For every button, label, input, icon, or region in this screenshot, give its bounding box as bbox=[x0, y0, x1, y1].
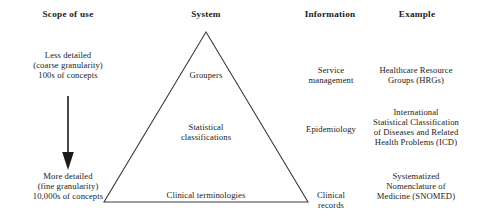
scope-top-label: Less detailed (coarse granularity) 100s … bbox=[3, 50, 133, 80]
example-tier-hrgs: Healthcare Resource Groups (HRGs) bbox=[353, 65, 479, 85]
pyramid-tier-label-statistical-classifications: Statistical classifications bbox=[161, 122, 251, 142]
downward-arrow-icon bbox=[62, 96, 74, 170]
example-tier-icd: International Statistical Classification… bbox=[353, 107, 479, 148]
column-header-example: Example bbox=[362, 9, 472, 20]
figure-canvas: Scope of use System Information Example … bbox=[0, 0, 479, 224]
pyramid-tier-label-groupers: Groupers bbox=[161, 70, 251, 80]
example-tier-snomed: Systematized Nomenclature of Medicine (S… bbox=[353, 171, 479, 201]
pyramid-triangle bbox=[104, 32, 308, 202]
column-header-system: System bbox=[146, 9, 266, 20]
column-header-scope-of-use: Scope of use bbox=[8, 9, 128, 20]
scope-bottom-label: More detailed (fine granularity) 10,000s… bbox=[3, 171, 133, 201]
pyramid-tier-label-clinical-terminologies: Clinical terminologies bbox=[146, 190, 266, 200]
